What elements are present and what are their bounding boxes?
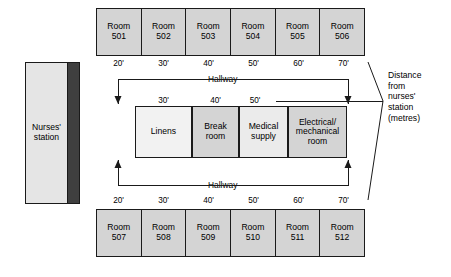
- top-distance-tick: 40': [186, 59, 231, 68]
- leader-line-bottom: [368, 101, 383, 200]
- top-distance-tick: 70': [321, 59, 366, 68]
- table-row: Room 511: [276, 210, 321, 256]
- table-row: Room 505: [276, 9, 321, 55]
- nurses-station: Nurses' station: [25, 62, 80, 204]
- table-row: Room 510: [231, 210, 276, 256]
- distance-annotation: Distance from nurses' station (metres): [388, 70, 450, 124]
- table-row: Room 506: [320, 9, 364, 55]
- center-distance-tick: 50': [235, 96, 275, 105]
- arrow-up-right-icon: [345, 160, 352, 168]
- arrow-up-left-icon: [115, 160, 122, 168]
- bottom-distance-tick: 60': [276, 196, 321, 205]
- bottom-room-row: Room 507 Room 508 Room 509 Room 510 Room…: [96, 209, 365, 257]
- top-distance-tick: 30': [141, 59, 186, 68]
- table-row: Room 502: [142, 9, 187, 55]
- bottom-distance-tick: 70': [321, 196, 366, 205]
- center-room-linens: Linens: [135, 106, 192, 158]
- table-row: Room 503: [186, 9, 231, 55]
- leader-line-top: [368, 62, 383, 101]
- center-room-break-room: Break room: [192, 106, 239, 158]
- center-distance-tick: 30': [135, 96, 192, 105]
- top-distance-tick: 20': [96, 59, 141, 68]
- hallway-label-bottom: Hallway: [205, 180, 240, 190]
- center-room-medical-supply: Medical supply: [239, 106, 288, 158]
- arrow-down-left-icon: [115, 96, 122, 104]
- center-room-electrical-mechanical: Electrical/ mechanical room: [288, 106, 347, 158]
- table-row: Room 504: [231, 9, 276, 55]
- nurses-station-wall: [67, 63, 79, 203]
- bottom-distance-tick: 30': [141, 196, 186, 205]
- top-distance-tick: 50': [231, 59, 276, 68]
- arrow-down-right-icon: [345, 96, 352, 104]
- table-row: Room 508: [142, 210, 187, 256]
- center-distance-tick: 40': [192, 96, 239, 105]
- floor-plan-diagram: Nurses' station Room 501 Room 502 Room 5…: [0, 0, 451, 277]
- table-row: Room 507: [97, 210, 142, 256]
- hallway-label-top: Hallway: [205, 74, 240, 84]
- top-distance-tick: 60': [276, 59, 321, 68]
- table-row: Room 509: [186, 210, 231, 256]
- top-room-row: Room 501 Room 502 Room 503 Room 504 Room…: [96, 8, 365, 56]
- table-row: Room 512: [320, 210, 364, 256]
- bottom-distance-tick: 40': [186, 196, 231, 205]
- table-row: Room 501: [97, 9, 142, 55]
- bottom-distance-tick: 20': [96, 196, 141, 205]
- nurses-station-label: Nurses' station: [26, 63, 67, 203]
- bottom-distance-tick: 50': [231, 196, 276, 205]
